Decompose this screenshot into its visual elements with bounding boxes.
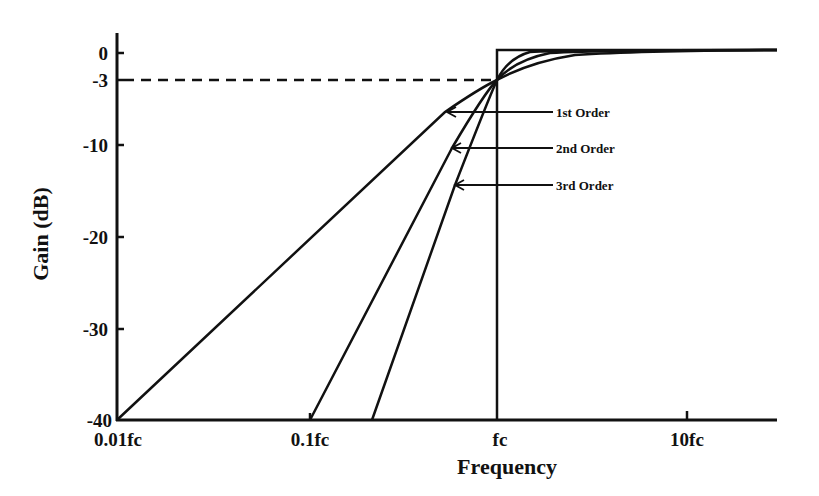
y-tick-label: 0 (99, 43, 109, 64)
x-tick-label: 0.01fc (94, 429, 142, 450)
annotation-label: 3rd Order (556, 178, 614, 193)
x-axis-title: Frequency (457, 454, 557, 479)
y-tick-label: -10 (83, 135, 108, 156)
y-tick-label: -20 (83, 227, 108, 248)
x-tick-label: 10fc (670, 429, 704, 450)
y-tick-label: -30 (83, 319, 108, 340)
annotation-3rd-order: 3rd Order (455, 178, 614, 193)
ideal-response-line (497, 50, 777, 420)
annotation-label: 1st Order (556, 105, 610, 120)
x-tick-label: 0.1fc (291, 429, 330, 450)
filter-response-chart: 0 -3 -10 -20 -30 -40 0.01fc 0.1fc fc 10f… (0, 0, 819, 496)
annotation-label: 2nd Order (556, 141, 615, 156)
x-tick-label: fc (493, 429, 508, 450)
y-axis-title: Gain (dB) (28, 187, 53, 281)
y-tick-label: -3 (92, 70, 108, 91)
annotation-2nd-order: 2nd Order (452, 141, 615, 156)
series-1st-order (117, 50, 777, 420)
y-tick-label: -40 (87, 410, 112, 431)
series-2nd-order (310, 50, 777, 420)
